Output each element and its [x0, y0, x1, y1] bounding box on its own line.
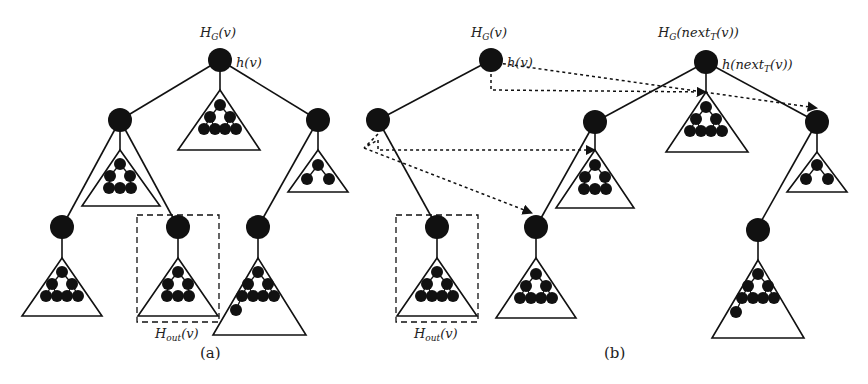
panel-b-right-root-h-label: h(nextT(v)): [722, 57, 793, 74]
panel-a-caption: (a): [200, 344, 221, 362]
panel-b-caption: (b): [604, 344, 625, 362]
panel-b-left-root-h-label: h(v): [507, 55, 533, 70]
tree-decomposition-figure: HG(v) h(v) Hout(v) (a) HG(v) h(v) HG(nex…: [0, 0, 868, 384]
panel-a-root-h-label: h(v): [236, 55, 262, 70]
panel-b-right-root-label: HG(nextT(v)): [657, 25, 739, 42]
panel-a-hout-label: Hout(v): [154, 326, 199, 343]
panel-a-root-label: HG(v): [199, 25, 236, 42]
panel-a-nodes: [40, 48, 335, 316]
panel-b-hout-label: Hout(v): [413, 326, 458, 343]
panel-b-left-root-label: HG(v): [470, 25, 507, 42]
